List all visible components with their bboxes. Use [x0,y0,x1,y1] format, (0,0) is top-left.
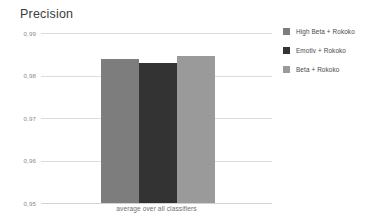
plot-area [41,33,272,203]
y-axis-tick-label: 0,96 [24,157,36,164]
legend-swatch-icon [283,47,290,54]
y-axis-tick-label: 0,97 [24,115,36,122]
y-axis-tick-label: 0,95 [24,200,36,207]
legend-item[interactable]: High Beta + Rokoko [283,26,355,36]
chart-legend: High Beta + RokokoEmotiv + RokokoBeta + … [283,26,355,83]
x-axis-label: average over all classifiers [41,205,272,212]
legend-item[interactable]: Emotiv + Rokoko [283,45,355,55]
y-axis-tick-label: 0,99 [24,30,36,37]
y-axis-tick-label: 0,98 [24,72,36,79]
gridline [41,203,272,204]
legend-item-label: Emotiv + Rokoko [296,47,346,54]
legend-swatch-icon [283,66,290,73]
legend-item-label: High Beta + Rokoko [296,28,355,35]
legend-swatch-icon [283,28,290,35]
bar [177,56,215,203]
bar-group [101,33,215,203]
precision-bar-chart: Precision 0,990,980,970,960,95 average o… [0,0,372,221]
legend-item[interactable]: Beta + Rokoko [283,64,355,74]
legend-item-label: Beta + Rokoko [296,66,339,73]
chart-title: Precision [20,7,73,21]
bar [139,63,177,203]
bar [101,59,139,203]
